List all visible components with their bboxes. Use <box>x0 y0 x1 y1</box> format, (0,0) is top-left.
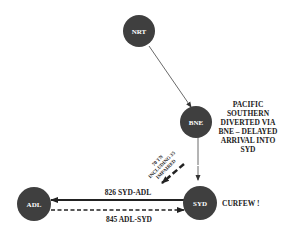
node-adl: ADL <box>17 187 51 221</box>
edge-label-826: 826 SYD-ADL <box>105 188 151 197</box>
svg-text:NRT: NRT <box>132 28 147 36</box>
edge-nrt-bne <box>149 46 191 107</box>
curfew-note: CURFEW ! <box>222 199 260 208</box>
route-diagram: NRT BNE SYD ADL PACIFIC SOUTHERN DIVERTE… <box>0 0 292 235</box>
svg-text:BNE – DELAYED: BNE – DELAYED <box>219 127 278 136</box>
bne-diversion-note: PACIFIC SOUTHERN DIVERTED VIA BNE – DELA… <box>219 100 278 154</box>
svg-text:SYD: SYD <box>193 200 207 208</box>
svg-text:SOUTHERN: SOUTHERN <box>227 109 270 118</box>
svg-text:DIVERTED VIA: DIVERTED VIA <box>221 118 276 127</box>
transfer-note: 70 TN INCLUDING 35 IMPAIRED <box>143 146 180 183</box>
edge-label-845: 845 ADL-SYD <box>106 215 153 224</box>
svg-text:BNE: BNE <box>189 119 204 127</box>
svg-text:SYD: SYD <box>240 145 256 154</box>
node-nrt: NRT <box>123 15 155 47</box>
node-bne: BNE <box>180 106 212 138</box>
svg-text:ARRIVAL INTO: ARRIVAL INTO <box>221 136 276 145</box>
svg-text:ADL: ADL <box>27 201 42 209</box>
svg-text:PACIFIC: PACIFIC <box>233 100 264 109</box>
node-syd: SYD <box>183 186 217 220</box>
